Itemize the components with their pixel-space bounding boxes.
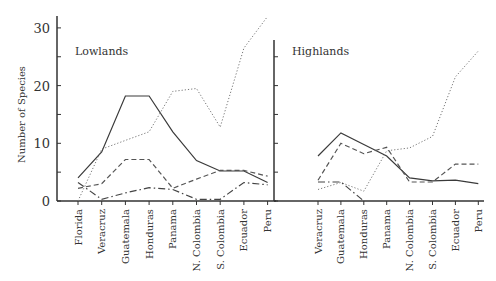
series-line-dash-dot: [78, 183, 268, 200]
y-tick-label: 30: [33, 21, 50, 36]
x-tick-label: S. Colombia: [215, 209, 226, 270]
x-tick-label: Panama: [167, 209, 178, 249]
x-tick-label: Ecuador: [450, 209, 461, 252]
series-line-solid: [78, 96, 268, 183]
x-tick-label: Panama: [381, 209, 392, 249]
x-tick-label: Guatemala: [335, 209, 346, 264]
panel-title-lowlands: Lowlands: [75, 45, 129, 58]
figure-caption: [60, 268, 496, 281]
x-tick-label: Guatemala: [120, 209, 131, 264]
x-tick-label: S. Colombia: [427, 209, 438, 270]
panel-title-highlands: Highlands: [292, 45, 349, 58]
x-tick-label: Florida: [73, 209, 84, 246]
y-tick-label: 20: [33, 79, 50, 94]
x-tick-label: Honduras: [358, 209, 369, 259]
x-tick-label: Peru: [473, 208, 484, 232]
species-richness-chart: FloridaVeracruzGuatemalaHondurasPanamaN.…: [0, 0, 496, 281]
x-tick-label: N. Colombia: [191, 209, 202, 271]
x-tick-label: Veracruz: [96, 209, 107, 255]
y-axis-title: Number of Species: [16, 66, 27, 163]
series-line-solid: [318, 133, 478, 184]
y-tick-label: 10: [33, 136, 50, 151]
x-tick-label: Honduras: [144, 209, 155, 259]
data-series: [78, 16, 478, 201]
x-tick-label: Peru: [262, 208, 273, 232]
x-tick-label: Veracruz: [313, 209, 324, 255]
x-tick-label: N. Colombia: [404, 209, 415, 271]
series-line-dash-dot: [318, 182, 364, 201]
x-tick-label: Ecuador: [238, 209, 249, 252]
y-tick-label: 0: [42, 194, 50, 209]
series-line-dotted: [318, 51, 478, 191]
series-line-dashed: [78, 160, 268, 189]
